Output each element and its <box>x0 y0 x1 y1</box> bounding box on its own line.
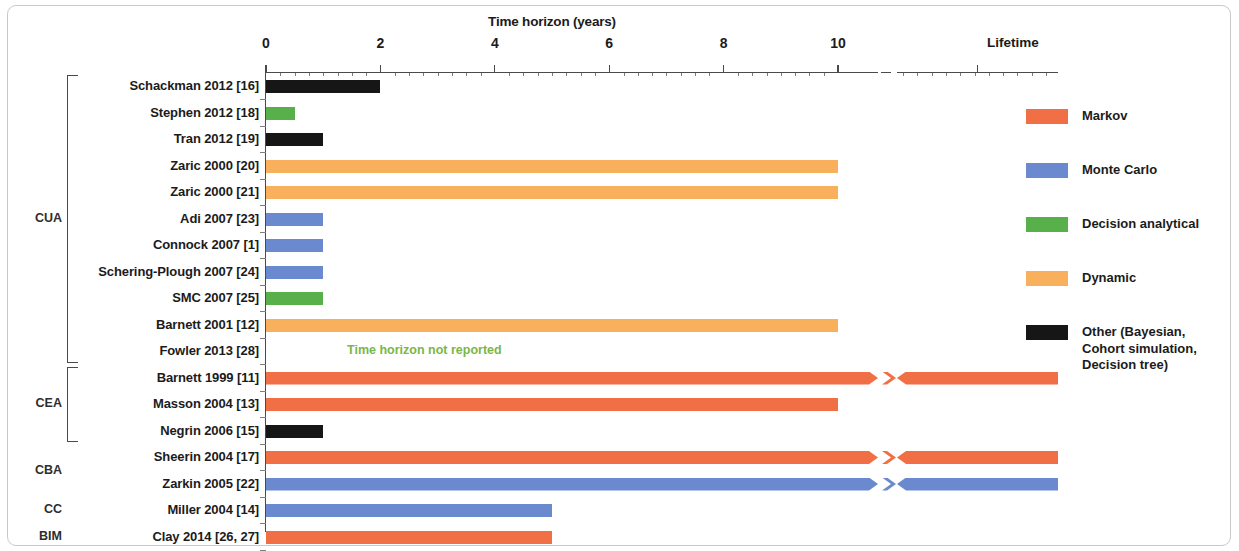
row-tick <box>260 550 266 551</box>
legend-swatch <box>1026 163 1068 178</box>
bar <box>266 160 838 173</box>
chart-row <box>266 73 1058 100</box>
legend-label: Decision analytical <box>1082 216 1199 233</box>
bar <box>266 266 323 279</box>
study-label: Zarkin 2005 [22] <box>162 476 259 491</box>
study-label: Zaric 2000 [20] <box>170 158 259 173</box>
axis-title: Time horizon (years) <box>266 14 838 29</box>
chart-row <box>266 471 1058 498</box>
study-label: Stephen 2012 [18] <box>150 105 259 120</box>
chart-row <box>266 100 1058 127</box>
study-label: Masson 2004 [13] <box>153 396 259 411</box>
bar-segment-left <box>266 372 878 385</box>
chart-row <box>266 126 1058 153</box>
group-label-cba: CBA <box>0 463 62 477</box>
legend-swatch <box>1026 271 1068 286</box>
legend-item: Monte Carlo <box>1026 162 1157 179</box>
study-label: SMC 2007 [25] <box>172 290 259 305</box>
bar <box>266 319 838 332</box>
chart-row <box>266 524 1058 551</box>
bar <box>266 398 838 411</box>
study-label: Connock 2007 [1] <box>153 237 259 252</box>
legend-label: Dynamic <box>1082 270 1136 287</box>
study-label: Schering-Plough 2007 [24] <box>98 264 259 279</box>
bar-break-chevron <box>882 451 896 464</box>
group-label-cua: CUA <box>0 211 62 225</box>
chart-row <box>266 153 1058 180</box>
group-label-cea: CEA <box>0 396 62 410</box>
legend-item: Markov <box>1026 108 1128 125</box>
chart-row <box>266 418 1058 445</box>
chart-row <box>266 497 1058 524</box>
chart-row <box>266 391 1058 418</box>
chart-row <box>266 259 1058 286</box>
legend-swatch <box>1026 217 1068 232</box>
legend-label: Monte Carlo <box>1082 162 1157 179</box>
legend-label: Other (Bayesian, Cohort simulation, Deci… <box>1082 324 1197 374</box>
study-label: Adi 2007 [23] <box>180 211 259 226</box>
study-label: Barnett 1999 [11] <box>157 370 259 385</box>
legend-item: Decision analytical <box>1026 216 1199 233</box>
chart-row <box>266 179 1058 206</box>
legend-swatch <box>1026 325 1068 340</box>
bar-segment-lifetime <box>897 451 1058 464</box>
chart-row <box>266 444 1058 471</box>
study-label: Sheerin 2004 [17] <box>154 449 259 464</box>
chart-row <box>266 232 1058 259</box>
study-label: Barnett 2001 [12] <box>156 317 259 332</box>
bar <box>266 292 323 305</box>
chart-row <box>266 206 1058 233</box>
bar <box>266 504 552 517</box>
axis-tick-label-2: 2 <box>376 35 384 51</box>
bar <box>266 531 552 544</box>
plot-area: Time horizon not reported <box>266 73 1058 532</box>
chart-row <box>266 365 1058 392</box>
bar-segment-left <box>266 451 878 464</box>
study-label: Schackman 2012 [16] <box>129 78 259 93</box>
axis-tick-label-8: 8 <box>720 35 728 51</box>
group-bracket <box>67 75 78 363</box>
bar <box>266 80 380 93</box>
study-label: Clay 2014 [26, 27] <box>152 529 259 544</box>
bar-break-chevron <box>882 372 896 385</box>
group-label-bim: BIM <box>0 529 62 543</box>
group-label-cc: CC <box>0 502 62 516</box>
not-reported-note: Time horizon not reported <box>347 343 502 357</box>
axis-tick-label-lifetime: Lifetime <box>987 35 1039 50</box>
axis-tick-label-6: 6 <box>605 35 613 51</box>
chart-row <box>266 312 1058 339</box>
chart-row <box>266 285 1058 312</box>
legend-item: Other (Bayesian, Cohort simulation, Deci… <box>1026 324 1197 374</box>
study-label: Fowler 2013 [28] <box>159 343 259 358</box>
legend-swatch <box>1026 109 1068 124</box>
chart-row: Time horizon not reported <box>266 338 1058 365</box>
study-label: Negrin 2006 [15] <box>160 423 259 438</box>
bar-segment-lifetime <box>897 478 1058 491</box>
bar-segment-left <box>266 478 878 491</box>
axis-tick-label-4: 4 <box>491 35 499 51</box>
axis-tick-label-0: 0 <box>262 35 270 51</box>
bar-break-chevron <box>882 478 896 491</box>
legend-label: Markov <box>1082 108 1128 125</box>
legend-item: Dynamic <box>1026 270 1136 287</box>
bar <box>266 425 323 438</box>
study-label: Miller 2004 [14] <box>167 502 259 517</box>
bar <box>266 133 323 146</box>
bar <box>266 213 323 226</box>
bar <box>266 239 323 252</box>
figure-root: Time horizon (years) 0246810Lifetime Sch… <box>0 0 1239 551</box>
axis-tick-label-10: 10 <box>830 35 846 51</box>
study-label: Tran 2012 [19] <box>174 131 259 146</box>
group-bracket <box>67 367 78 443</box>
bar <box>266 186 838 199</box>
bar <box>266 107 295 120</box>
study-label: Zaric 2000 [21] <box>170 184 259 199</box>
